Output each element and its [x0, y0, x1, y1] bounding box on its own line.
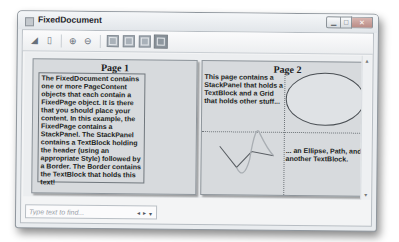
page-1-text: The FixedDocument contains one or more P…: [40, 74, 142, 187]
find-next-icon[interactable]: ▸: [143, 209, 146, 216]
zoom-out-button[interactable]: ⊖: [83, 35, 94, 46]
actual-size-icon: [109, 37, 117, 45]
window-controls: ▁ □ ✕: [326, 16, 373, 27]
maximize-button[interactable]: □: [341, 17, 352, 29]
page-1: Page 1 The FixedDocument contains one or…: [31, 58, 197, 195]
path-shape: [220, 146, 274, 168]
fixed-document-window: FixedDocument ▁ □ ✕ ◢ ▯ ⊕ ⊖: [15, 10, 379, 232]
actual-size-button[interactable]: [107, 35, 119, 47]
two-pages-button[interactable]: [155, 36, 167, 48]
whole-page-button[interactable]: [139, 35, 151, 47]
document-viewer[interactable]: Page 1 The FixedDocument contains one or…: [23, 52, 361, 200]
zoom-out-icon: ⊖: [84, 36, 92, 46]
page-width-icon: [125, 37, 133, 45]
minimize-button[interactable]: ▁: [326, 16, 341, 28]
close-button[interactable]: ✕: [352, 17, 373, 29]
find-toolbar: ◂ ▸ ▾: [25, 204, 157, 219]
print-button[interactable]: ◢: [29, 35, 40, 46]
find-options-icon[interactable]: ▾: [149, 209, 152, 216]
find-navigation: ◂ ▸ ▾: [137, 209, 156, 216]
two-pages-icon: [157, 38, 165, 46]
app-icon[interactable]: [25, 17, 34, 26]
scroll-up-icon[interactable]: ▲: [365, 58, 370, 64]
vertical-scrollbar[interactable]: ▲ ▼: [360, 56, 372, 200]
page-2: Page 2 This page contains a StackPanel t…: [200, 60, 361, 197]
page-2-text-2: ... an Ellipse, Path, and another TextBl…: [286, 147, 362, 164]
copy-icon: ▯: [47, 35, 52, 45]
toolbar-separator: [61, 34, 62, 47]
page-2-text-1: This page contains a StackPanel that hol…: [204, 73, 284, 106]
page-1-text-border: The FixedDocument contains one or more P…: [37, 72, 145, 183]
client-area: ◢ ▯ ⊕ ⊖: [20, 29, 374, 227]
window-title: FixedDocument: [38, 14, 102, 25]
whole-page-icon: [141, 37, 149, 45]
zoom-in-button[interactable]: ⊕: [68, 35, 79, 46]
find-previous-icon[interactable]: ◂: [137, 209, 140, 216]
ellipse-shape: [286, 73, 362, 126]
page-width-button[interactable]: [123, 35, 135, 47]
scroll-down-icon[interactable]: ▼: [363, 192, 368, 198]
toolbar-separator: [100, 34, 101, 47]
find-input[interactable]: [26, 205, 137, 218]
document-viewer-toolbar: ◢ ▯ ⊕ ⊖: [23, 30, 373, 55]
print-icon: ◢: [31, 35, 38, 45]
copy-button[interactable]: ▯: [44, 35, 55, 46]
zoom-in-icon: ⊕: [69, 36, 77, 46]
